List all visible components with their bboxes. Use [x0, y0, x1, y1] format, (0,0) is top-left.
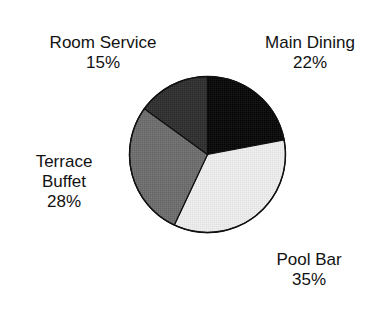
- pie-label-pool-bar-value: 35%: [243, 270, 375, 290]
- pie-label-main-dining-name: Main Dining: [235, 33, 385, 53]
- pie-label-room-service-name: Room Service: [18, 33, 188, 53]
- pie-label-pool-bar-name: Pool Bar: [243, 250, 375, 270]
- pie-label-pool-bar: Pool Bar 35%: [243, 250, 375, 290]
- pie-label-terrace-buffet: Terrace Buffet 28%: [8, 152, 120, 212]
- pie-chart-figure: Room Service 15% Main Dining 22% Terrace…: [0, 0, 387, 316]
- pie-label-room-service-value: 15%: [18, 53, 188, 73]
- pie-label-main-dining: Main Dining 22%: [235, 33, 385, 73]
- pie-label-main-dining-value: 22%: [235, 53, 385, 73]
- pie-label-terrace-buffet-value: 28%: [8, 192, 120, 212]
- pie-label-room-service: Room Service 15%: [18, 33, 188, 73]
- pie-label-terrace-buffet-name-line2: Buffet: [8, 172, 120, 192]
- pie-label-terrace-buffet-name-line1: Terrace: [8, 152, 120, 172]
